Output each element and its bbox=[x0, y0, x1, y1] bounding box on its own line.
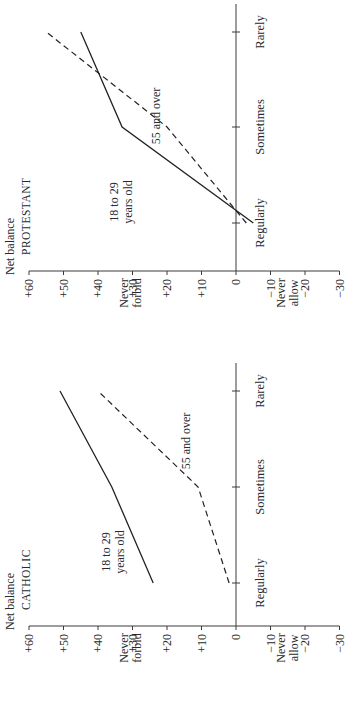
value-tick-label: +20 bbox=[160, 279, 174, 298]
protestant-panel: +60+50+40+30+20+100−10−20−30Net balanceP… bbox=[3, 4, 347, 308]
never-allow-label: allow bbox=[287, 634, 301, 661]
series-annotation: 55 and over bbox=[149, 88, 163, 145]
series-annotation: 18 to 29 bbox=[99, 532, 113, 571]
series-annotation: 55 and over bbox=[179, 413, 193, 470]
never-allow-label: Never bbox=[274, 633, 288, 662]
category-label: Regularly bbox=[253, 558, 267, 608]
never-forbid-label: forbid bbox=[130, 278, 144, 307]
value-tick-label: +50 bbox=[57, 634, 71, 653]
never-allow-label: allow bbox=[287, 279, 301, 306]
net-balance-label: Net balance bbox=[3, 573, 17, 630]
value-tick-label: 0 bbox=[229, 634, 243, 640]
panel-title: CATHOLIC bbox=[20, 549, 32, 610]
value-tick-label: +60 bbox=[22, 279, 36, 298]
category-label: Sometimes bbox=[253, 99, 267, 155]
value-tick-label: −30 bbox=[333, 634, 347, 653]
value-tick-label: +40 bbox=[91, 634, 105, 653]
series-annotation: years old bbox=[113, 530, 127, 574]
chart-figure: +60+50+40+30+20+100−10−20−30Net balanceC… bbox=[0, 0, 357, 722]
value-tick-label: 0 bbox=[229, 279, 243, 285]
series-line bbox=[46, 32, 246, 223]
value-tick-label: +20 bbox=[160, 634, 174, 653]
figure: +60+50+40+30+20+100−10−20−30Net balanceC… bbox=[0, 0, 357, 722]
never-forbid-label: forbid bbox=[130, 633, 144, 662]
category-label: Sometimes bbox=[253, 459, 267, 515]
never-forbid-label: Never bbox=[117, 278, 131, 307]
panel-title: PROTESTANT bbox=[20, 177, 32, 255]
value-tick-label: +10 bbox=[195, 279, 209, 298]
catholic-panel: +60+50+40+30+20+100−10−20−30Net balanceC… bbox=[3, 363, 347, 663]
category-label: Regularly bbox=[253, 198, 267, 248]
category-label: Rarely bbox=[253, 374, 267, 408]
value-tick-label: +50 bbox=[57, 279, 71, 298]
value-tick-label: +40 bbox=[91, 279, 105, 298]
never-allow-label: Never bbox=[274, 278, 288, 307]
category-label: Rarely bbox=[253, 15, 267, 49]
series-annotation: years old bbox=[121, 180, 135, 224]
net-balance-label: Net balance bbox=[3, 218, 17, 275]
value-tick-label: −30 bbox=[333, 279, 347, 298]
value-tick-label: +10 bbox=[195, 634, 209, 653]
never-forbid-label: Never bbox=[117, 633, 131, 662]
series-annotation: 18 to 29 bbox=[107, 182, 121, 221]
value-tick-label: +60 bbox=[22, 634, 36, 653]
